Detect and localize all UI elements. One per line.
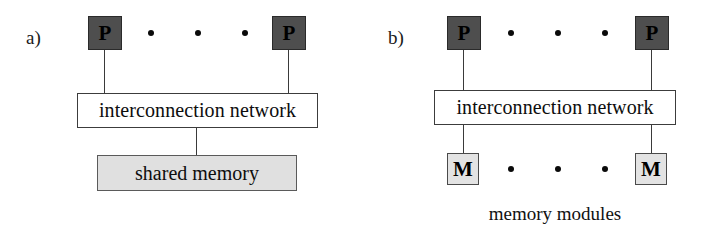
ellipsis-dot-icon bbox=[602, 166, 608, 172]
panel-b-wire-network-to-memory-1 bbox=[463, 125, 464, 154]
panel-b-memory-node-1: M bbox=[447, 153, 479, 185]
panel-a-wire-processor-1-to-network bbox=[104, 50, 105, 93]
ellipsis-dot-icon bbox=[602, 30, 608, 36]
ellipsis-dot-icon bbox=[555, 30, 561, 36]
architecture-diagram: a) P P interconnection network shared me… bbox=[0, 0, 718, 243]
panel-b-processor-ellipsis bbox=[508, 30, 608, 36]
ellipsis-dot-icon bbox=[555, 166, 561, 172]
panel-a-processor-ellipsis bbox=[148, 30, 248, 36]
panel-label-a: a) bbox=[26, 28, 41, 47]
ellipsis-dot-icon bbox=[508, 30, 514, 36]
ellipsis-dot-icon bbox=[148, 30, 154, 36]
panel-b-memory-node-2: M bbox=[635, 153, 667, 185]
panel-a-wire-processor-2-to-network bbox=[288, 50, 289, 93]
panel-b-wire-network-to-memory-2 bbox=[651, 125, 652, 154]
panel-a-processor-node-1: P bbox=[88, 16, 122, 50]
panel-b-processor-node-1: P bbox=[447, 16, 481, 50]
panel-b-processor-node-2: P bbox=[635, 16, 669, 50]
ellipsis-dot-icon bbox=[508, 166, 514, 172]
panel-a-processor-node-2: P bbox=[272, 16, 306, 50]
ellipsis-dot-icon bbox=[242, 30, 248, 36]
panel-a-shared-memory-box: shared memory bbox=[97, 155, 297, 191]
panel-a-interconnection-network-box: interconnection network bbox=[77, 93, 318, 128]
ellipsis-dot-icon bbox=[195, 30, 201, 36]
panel-label-b: b) bbox=[388, 28, 404, 47]
panel-b-wire-processor-2-to-network bbox=[651, 50, 652, 90]
panel-b-interconnection-network-box: interconnection network bbox=[434, 90, 676, 125]
panel-b-memory-modules-caption: memory modules bbox=[434, 203, 676, 225]
panel-b-wire-processor-1-to-network bbox=[463, 50, 464, 90]
panel-a-wire-network-to-shared-memory bbox=[196, 128, 197, 156]
panel-b-memory-ellipsis bbox=[508, 166, 608, 172]
